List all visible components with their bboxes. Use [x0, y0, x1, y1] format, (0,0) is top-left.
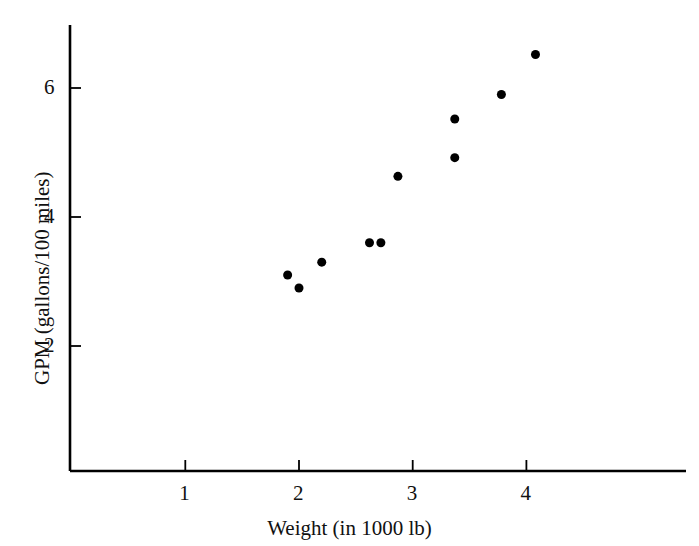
x-tick-label: 1 — [179, 483, 190, 504]
axes-group — [70, 25, 686, 471]
data-points-group — [283, 50, 540, 292]
data-point — [317, 258, 326, 267]
data-point — [376, 238, 385, 247]
y-tick-label: 6 — [44, 77, 55, 98]
data-point — [450, 153, 459, 162]
axis-ticks-group — [70, 88, 526, 471]
data-point — [295, 283, 304, 292]
x-tick-label: 3 — [407, 483, 418, 504]
plot-canvas — [0, 0, 699, 546]
data-point — [283, 271, 292, 280]
data-point — [497, 90, 506, 99]
data-point — [450, 114, 459, 123]
x-tick-label: 2 — [293, 483, 304, 504]
data-point — [393, 172, 402, 181]
scatter-plot-figure: 1234 246 Weight (in 1000 lb) GPM (gallon… — [0, 0, 699, 546]
y-axis-title: GPM (gallons/100 miles) — [30, 172, 55, 386]
x-tick-label: 4 — [520, 483, 531, 504]
data-point — [531, 50, 540, 59]
data-point — [365, 238, 374, 247]
x-axis-title: Weight (in 1000 lb) — [0, 516, 699, 541]
